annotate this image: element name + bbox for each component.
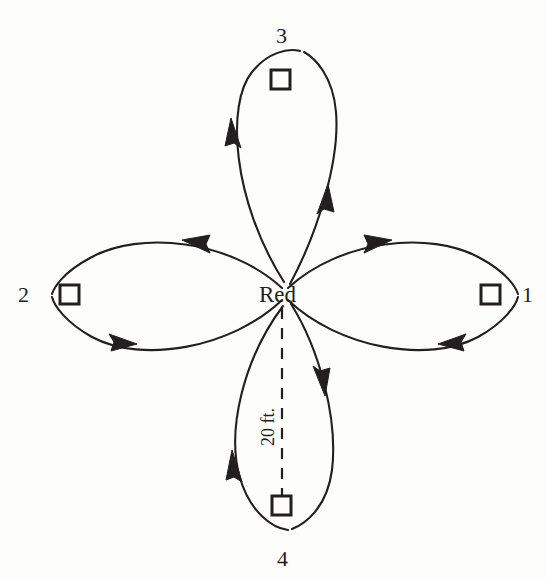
loop-south-outbound-path (291, 304, 333, 529)
loop-west-outbound-path (52, 243, 282, 294)
station-marker-3 (271, 70, 290, 89)
loop-north-station-3 (225, 50, 336, 284)
loop-north-outbound-arrowhead (317, 184, 334, 214)
station-marker-1 (481, 285, 500, 304)
loop-north-outbound-path (290, 52, 336, 284)
station-marker-4 (272, 496, 291, 515)
petal-loop-diagram: 1 2 3 4 Red 20 ft. (0, 0, 546, 582)
station-label-4: 4 (277, 548, 288, 570)
station-label-3: 3 (276, 25, 287, 47)
loop-north-return-arrowhead (225, 118, 241, 148)
loop-west-return-path (52, 297, 282, 350)
loop-south-outbound-arrowhead (313, 366, 330, 396)
loop-east-station-1 (288, 235, 518, 351)
distance-label: 20 ft. (259, 408, 277, 446)
station-label-1: 1 (522, 284, 533, 306)
station-marker-2 (60, 285, 79, 304)
loop-south-station-4 (226, 304, 333, 530)
hub-label: Red (259, 283, 296, 306)
loop-west-station-2 (52, 235, 282, 351)
loop-south-return-arrowhead (226, 450, 242, 482)
station-label-2: 2 (18, 284, 29, 306)
